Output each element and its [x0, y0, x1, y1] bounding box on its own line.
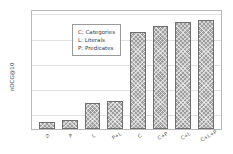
- x-axis-tick: L: [91, 132, 96, 139]
- x-slot: C+P: [149, 131, 172, 153]
- bar: [62, 120, 78, 129]
- bar-slot: [194, 11, 217, 129]
- bar: [175, 22, 191, 129]
- x-slot: L: [81, 131, 104, 153]
- bar: [198, 20, 214, 129]
- legend-item-predicates: P: Predicates: [78, 44, 115, 52]
- bar: [85, 103, 101, 129]
- x-axis-tick: P+L: [111, 131, 123, 141]
- bar: [130, 32, 146, 129]
- y-axis-label: nDCG@10: [9, 63, 15, 91]
- x-axis-tick: C: [136, 132, 142, 139]
- x-axis-tick: C+P: [156, 130, 168, 141]
- bar-series: [32, 11, 221, 129]
- x-slot: C+L+P: [195, 131, 218, 153]
- legend: C: Categories L: Literals P: Predicates: [72, 24, 121, 56]
- x-slot: ∅: [35, 131, 58, 153]
- bar-slot: [127, 11, 150, 129]
- bar: [153, 26, 169, 129]
- legend-item-literals: L: Literals: [78, 36, 115, 44]
- bar: [39, 122, 55, 129]
- bar-slot: [36, 11, 59, 129]
- chart-figure: nDCG@10 C: Categories L: Literals P: Pre…: [0, 0, 233, 154]
- x-axis-tick: P: [68, 132, 74, 139]
- bar-slot: [172, 11, 195, 129]
- x-axis-tick: C+L: [179, 130, 191, 140]
- bar-slot: [149, 11, 172, 129]
- x-slot: C: [127, 131, 150, 153]
- x-slot: C+L: [172, 131, 195, 153]
- x-axis-tick-labels: ∅PLP+LCC+PC+LC+L+P: [31, 131, 222, 153]
- legend-item-categories: C: Categories: [78, 28, 115, 36]
- x-axis-tick: ∅: [45, 132, 52, 139]
- x-slot: P+L: [104, 131, 127, 153]
- plot-area: C: Categories L: Literals P: Predicates: [31, 10, 222, 130]
- x-axis-tick: C+L+P: [199, 129, 217, 143]
- x-slot: P: [58, 131, 81, 153]
- bar: [107, 101, 123, 129]
